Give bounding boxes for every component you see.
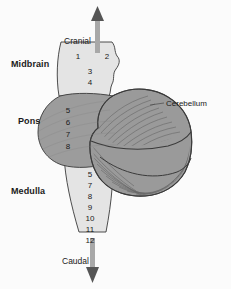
nerve-number-medulla-8: 8	[85, 192, 95, 201]
nerve-number-pons-7: 7	[64, 130, 72, 139]
part-label-cerebellum: Cerebellum	[166, 99, 207, 108]
nerve-number-pons-8: 8	[64, 142, 72, 151]
nerve-number-medulla-5: 5	[85, 170, 95, 179]
nerve-number-pons-6: 6	[64, 118, 72, 127]
nerve-number-medulla-9: 9	[85, 203, 95, 212]
nerve-number-2: 2	[103, 52, 111, 61]
diagram-graphic	[0, 0, 231, 289]
region-label-midbrain: Midbrain	[11, 59, 49, 69]
region-label-medulla: Medulla	[11, 186, 45, 196]
nerve-number-pons-5: 5	[64, 106, 72, 115]
nerve-number-3: 3	[86, 67, 94, 76]
nerve-number-medulla-12: 12	[84, 236, 96, 245]
brainstem-diagram: Cranial Caudal Midbrain Pons Medulla Cer…	[0, 0, 231, 289]
caudal-label: Caudal	[62, 256, 89, 266]
nerve-number-medulla-11: 11	[84, 225, 96, 234]
nerve-number-medulla-10: 10	[84, 214, 96, 223]
cranial-label: Cranial	[64, 36, 91, 46]
nerve-number-1: 1	[74, 52, 82, 61]
nerve-number-4: 4	[86, 78, 94, 87]
region-label-pons: Pons	[18, 116, 40, 126]
nerve-number-medulla-7: 7	[85, 181, 95, 190]
